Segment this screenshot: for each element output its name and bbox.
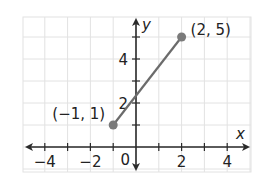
data-point: [177, 33, 186, 42]
coordinate-plane: −4−22424 (−1, 1)(2, 5) x y 0: [0, 0, 263, 186]
x-tick-label: 2: [177, 153, 187, 171]
data-point: [109, 121, 118, 130]
x-tick-label: −4: [34, 153, 56, 171]
x-tick-label: 4: [222, 153, 232, 171]
y-tick-label: 4: [118, 51, 128, 69]
x-tick-label: −2: [79, 153, 101, 171]
origin-label: 0: [120, 151, 130, 169]
y-tick-label: 2: [118, 95, 128, 113]
x-axis-label: x: [235, 125, 245, 143]
y-axis-label: y: [141, 16, 152, 34]
point-label: (2, 5): [191, 21, 231, 39]
point-label: (−1, 1): [52, 105, 105, 123]
